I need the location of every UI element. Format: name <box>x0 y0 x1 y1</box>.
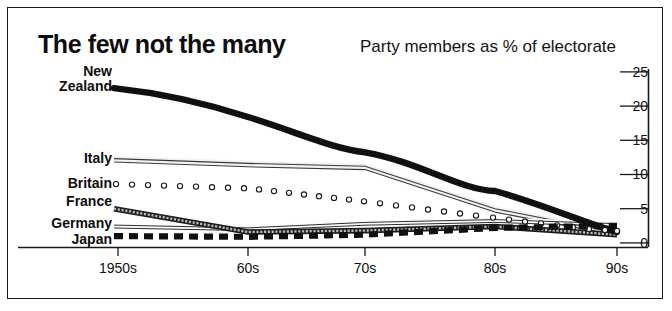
series-label-britain: Britain <box>68 176 112 190</box>
y-tick-label-5: 5 <box>614 202 648 216</box>
x-tick-label-1950s: 1950s <box>99 261 137 275</box>
series-label-france: France <box>66 194 112 208</box>
x-tick-label-70s: 70s <box>354 261 377 275</box>
y-tick-label-15: 15 <box>614 133 648 147</box>
y-tick-label-10: 10 <box>614 167 648 181</box>
y-tick-label-25: 25 <box>614 65 648 79</box>
x-tick-label-80s: 80s <box>484 261 507 275</box>
series-label-new-zealand-line2: Zealand <box>59 79 112 94</box>
y-tick-label-0: 0 <box>614 236 648 250</box>
series-label-japan: Japan <box>72 232 112 246</box>
axis-labels-layer: 25 20 15 10 5 0 1950s 60s 70s 80s 90s Ne… <box>0 0 672 311</box>
series-label-germany: Germany <box>51 216 112 230</box>
y-tick-label-20: 20 <box>614 99 648 113</box>
x-tick-label-60s: 60s <box>237 261 260 275</box>
x-tick-label-90s: 90s <box>606 261 629 275</box>
series-label-italy: Italy <box>84 151 112 165</box>
series-label-new-zealand: New Zealand <box>59 64 112 93</box>
series-label-new-zealand-line1: New <box>59 64 112 79</box>
